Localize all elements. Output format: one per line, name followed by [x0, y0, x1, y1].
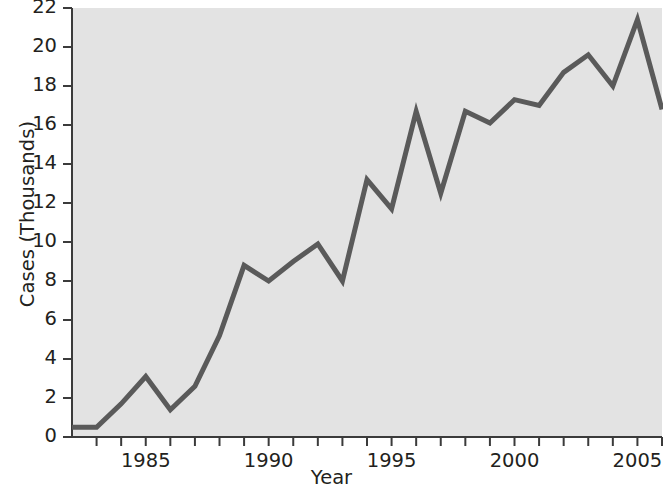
x-tick-label: 2005: [602, 449, 663, 472]
y-tick-label: 18: [23, 73, 57, 96]
plot-area-background: [72, 8, 662, 437]
x-tick-label: 1990: [234, 449, 304, 472]
y-tick-marks: [63, 8, 72, 437]
y-tick-label: 0: [23, 424, 57, 447]
y-tick-label: 14: [23, 151, 57, 174]
chart-canvas: [0, 0, 663, 497]
y-tick-label: 22: [23, 0, 57, 18]
y-tick-label: 4: [23, 346, 57, 369]
y-tick-label: 20: [23, 34, 57, 57]
y-tick-label: 8: [23, 268, 57, 291]
y-tick-label: 6: [23, 307, 57, 330]
x-tick-label: 1985: [111, 449, 181, 472]
x-tick-label: 1995: [357, 449, 427, 472]
x-axis-title-text: Year: [311, 466, 352, 489]
line-chart-figure: Cases (Thousands) Year 02468101214161820…: [0, 0, 663, 497]
y-tick-label: 2: [23, 385, 57, 408]
y-tick-label: 16: [23, 112, 57, 135]
x-tick-label: 2000: [480, 449, 550, 472]
y-tick-label: 10: [23, 229, 57, 252]
y-tick-label: 12: [23, 190, 57, 213]
x-axis-title: Year: [0, 466, 663, 489]
x-tick-marks: [97, 437, 662, 446]
